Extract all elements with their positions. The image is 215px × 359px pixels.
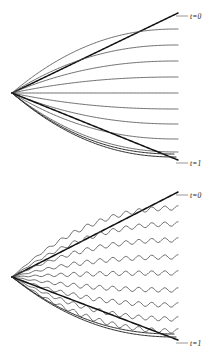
time-label-bottom: t=1 bbox=[190, 339, 202, 348]
fan-ray-ray-5 bbox=[12, 271, 178, 277]
smooth-fan-panel: t=0 t=1 bbox=[0, 0, 215, 180]
fan-ray-envelope-upper bbox=[12, 192, 178, 277]
fan-ray-ray-1 bbox=[12, 206, 178, 277]
smooth-fan-plot: t=0 t=1 bbox=[0, 0, 215, 180]
fan-ray-envelope-lower bbox=[12, 277, 178, 340]
oscillatory-fan-curves bbox=[12, 192, 178, 340]
time-label-top: t=0 bbox=[190, 191, 202, 200]
fan-ray-envelope-upper bbox=[12, 13, 178, 93]
time-label-bottom: t=1 bbox=[190, 159, 202, 168]
fan-ray-envelope-lower bbox=[12, 93, 178, 160]
fan-ray-ray-4 bbox=[12, 255, 178, 277]
fan-ray-ray-7 bbox=[12, 277, 178, 307]
fan-ray-ray-8 bbox=[12, 93, 178, 139]
oscillatory-fan-plot: t=0 t=1 bbox=[0, 180, 215, 359]
fan-ray-ray-4 bbox=[12, 77, 178, 93]
smooth-fan-curves bbox=[12, 13, 178, 160]
time-label-top: t=0 bbox=[190, 12, 202, 21]
oscillatory-fan-panel: t=0 t=1 bbox=[0, 180, 215, 359]
fan-ray-ray-8 bbox=[12, 277, 178, 321]
figure-stack: t=0 t=1 t=0 t=1 bbox=[0, 0, 215, 359]
